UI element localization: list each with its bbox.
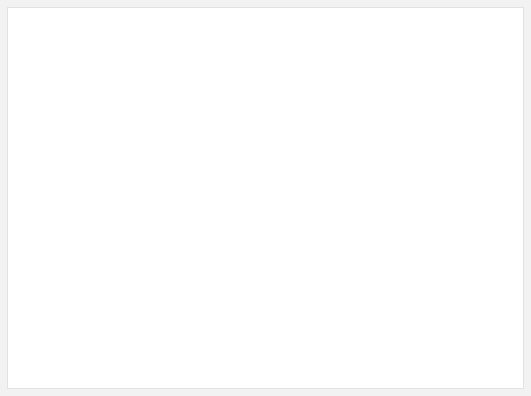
leader-recurrent-right bbox=[320, 330, 389, 344]
lateral-trachea bbox=[146, 283, 216, 359]
label-recurrent-laryngeal-nerve: Recurrent laryngea n. bbox=[272, 338, 320, 361]
label-epiglottic-cartilage-line1: Epiglottic bbox=[289, 41, 326, 51]
label-lateral-cricoarytenoid-muscle: Lateral cricoarytenoid m. bbox=[16, 257, 117, 268]
dot-aryepiglottic-right bbox=[393, 100, 396, 103]
dot-inf-laryngeal-right bbox=[385, 253, 388, 256]
dot-recurrent-left bbox=[205, 357, 208, 360]
lateral-aryepiglottic-muscle bbox=[201, 101, 232, 166]
dot-post-crico-left bbox=[190, 214, 193, 217]
leader-inf-laryngeal-right bbox=[337, 241, 386, 254]
posterior-epiglottic-cartilage bbox=[386, 21, 471, 160]
label-trachea: Trachea bbox=[272, 295, 320, 306]
dot-recurrent-right bbox=[388, 329, 391, 332]
label-inferior-laryngeal-nerve: Inferior laryngeal n. bbox=[246, 235, 325, 246]
dot-cricothyroid bbox=[210, 256, 213, 259]
caption-lateral-view: Lateral View bbox=[163, 368, 219, 379]
caption-posterior-view: Posterior View bbox=[400, 368, 467, 379]
label-arytenoid-transverse: Transverse bbox=[244, 164, 318, 175]
dot-epiglottic-right bbox=[413, 46, 416, 49]
lateral-superior-cartilage bbox=[118, 164, 157, 187]
dot-oblique bbox=[437, 199, 440, 202]
label-aryepiglottic-muscle: Aryepiglottic muscle bbox=[244, 95, 362, 106]
dot-transverse bbox=[425, 191, 428, 194]
label-recurrent-laryngeal-line2: laryngea n. bbox=[273, 349, 318, 359]
dot-inf-laryngeal-left bbox=[195, 240, 198, 243]
dot-aryepiglottic-left bbox=[215, 100, 218, 103]
dot-thyroepiglottic bbox=[194, 134, 197, 137]
posterior-trachea bbox=[392, 285, 466, 359]
posterior-view-group bbox=[377, 21, 500, 359]
posterior-thyroid-lamina-edge bbox=[377, 120, 386, 198]
dot-post-crico-right bbox=[407, 221, 410, 224]
label-thyroepiglottic-muscle: Thyroepiglottic muscle bbox=[246, 129, 337, 140]
dot-trachea-right bbox=[411, 311, 414, 314]
label-posterior-cricoarytenoid-line2: cricoarytenoid m. bbox=[258, 214, 328, 224]
label-recurrent-laryngeal-line1: Recurrent bbox=[276, 338, 316, 348]
label-thyroarytenoid-muscle: Thyroarytenoid m. bbox=[128, 219, 202, 230]
label-cricothyroid-joint: Cricothyroid joint bbox=[246, 251, 314, 262]
label-arytenoid-muscle-heading: Arytenoid muscle: bbox=[244, 147, 354, 158]
figure-root: Epiglottic cartilage Aryepiglottic muscl… bbox=[0, 0, 531, 396]
dot-thyroarytenoid bbox=[175, 207, 178, 210]
label-posterior-cricoarytenoid-line1: Posterior bbox=[274, 203, 311, 213]
label-arytenoid-oblique: Oblique bbox=[244, 176, 302, 187]
posterior-arytenoid-cartilages bbox=[404, 159, 452, 187]
dot-trachea-left bbox=[181, 315, 184, 318]
label-epiglottic-cartilage: Epiglottic cartilage bbox=[271, 41, 345, 64]
label-posterior-cricoarytenoid: Posterior cricoarytenoid m. bbox=[245, 203, 340, 226]
dot-epiglottic-left bbox=[201, 46, 204, 49]
posterior-thyroid-superior-cornu bbox=[466, 101, 500, 262]
label-epiglottic-cartilage-line2: cartilage bbox=[291, 52, 326, 62]
anatomical-artwork bbox=[0, 0, 531, 396]
lateral-view-group bbox=[118, 22, 231, 359]
